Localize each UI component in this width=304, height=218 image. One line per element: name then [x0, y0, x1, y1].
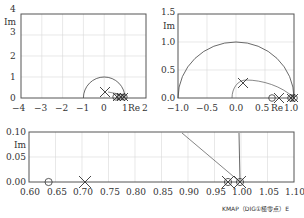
y-tick: 0.05 [6, 152, 26, 162]
x-axis-label: Re [271, 103, 283, 113]
y-tick: 0 [10, 93, 16, 103]
x-tick: 0.75 [100, 187, 120, 197]
plot-top-right: 0.0 0.5 1.0 1.5 Im −1.0 −0.5 0.0 0.5 Re … [161, 7, 299, 113]
x-tick: 0.95 [206, 187, 226, 197]
x-tick: 1.0 [284, 103, 299, 113]
y-axis-label: Im [14, 140, 27, 150]
y-tick: 0.5 [161, 65, 176, 75]
x-tick: 1 [122, 103, 128, 113]
y-tick: 1.0 [161, 37, 176, 47]
pole-zero-figure: 0 1 2 3 4 Im −4 −3 −2 −1 0 1 Re 2 [0, 0, 304, 218]
x-tick: 0.85 [153, 187, 173, 197]
figure-caption: KMAP（DIG①極零点）E [222, 205, 289, 213]
plot-top-left: 0 1 2 3 4 Im −4 −3 −2 −1 0 1 Re 2 [4, 4, 148, 113]
y-tick: 4 [10, 4, 16, 14]
x-tick: 1.05 [259, 187, 279, 197]
locus-curve [232, 80, 294, 98]
x-tick: 0 [101, 103, 107, 113]
grid-top-left [21, 14, 146, 98]
y-axis-label: Im [163, 21, 176, 31]
x-tick: 1.00 [232, 187, 252, 197]
grid-bottom [29, 132, 294, 182]
x-tick: −1 [76, 103, 89, 113]
y-tick: 1.5 [161, 7, 176, 17]
x-tick: 0.60 [20, 187, 40, 197]
x-tick: 0.5 [255, 103, 270, 113]
y-tick: 0.00 [6, 177, 26, 187]
x-tick: −3 [34, 103, 48, 113]
x-tick: 0.90 [179, 187, 199, 197]
x-tick: −2 [55, 103, 68, 113]
x-tick: −1.0 [167, 103, 189, 113]
y-tick: 0.10 [6, 127, 26, 137]
y-tick: 3 [10, 27, 16, 37]
x-tick: 0.0 [229, 103, 244, 113]
y-tick: 1 [10, 72, 16, 82]
x-tick: 0.70 [73, 187, 93, 197]
locus-vertical [239, 133, 240, 182]
x-tick: 0.80 [126, 187, 146, 197]
y-tick: 0.0 [161, 93, 176, 103]
x-tick: 2 [142, 103, 148, 113]
y-tick: 2 [10, 51, 16, 61]
x-tick: 1.10 [285, 187, 304, 197]
x-tick: −0.5 [196, 103, 218, 113]
plot-bottom: 0.00 0.05 0.10 Im 0.60 0.65 0.70 0.75 0.… [6, 127, 304, 197]
y-axis-label: Im [4, 17, 17, 27]
x-axis-label: Re [128, 103, 140, 113]
locus-diagonal [182, 133, 240, 182]
pole-marker [238, 78, 248, 88]
x-tick: 0.65 [47, 187, 67, 197]
x-tick: −4 [12, 103, 26, 113]
